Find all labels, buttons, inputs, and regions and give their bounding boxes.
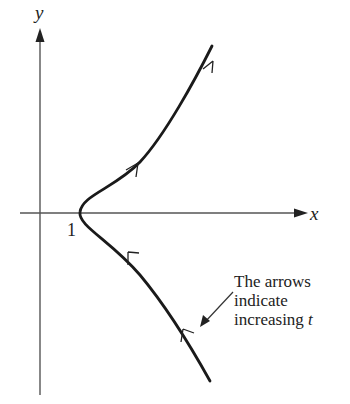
annotation-text: The arrows indicate increasing t bbox=[234, 272, 313, 329]
x-axis-arrowhead-icon bbox=[294, 209, 308, 218]
x-axis-label: x bbox=[310, 203, 318, 225]
y-axis-arrowhead-icon bbox=[36, 28, 45, 42]
y-axis-label: y bbox=[35, 2, 43, 24]
annotation-line-2: indicate bbox=[234, 291, 313, 310]
annotation-line-3: increasing t bbox=[234, 310, 313, 329]
annotation-pointer-line bbox=[205, 292, 233, 322]
diagram-canvas bbox=[0, 0, 350, 404]
annotation-pointer-arrowhead-icon bbox=[200, 315, 210, 327]
annotation-line-1: The arrows bbox=[234, 272, 313, 291]
annotation-variable-t: t bbox=[308, 310, 313, 329]
annotation-line-3-text: increasing bbox=[234, 310, 308, 329]
x-tick-label: 1 bbox=[67, 220, 76, 241]
